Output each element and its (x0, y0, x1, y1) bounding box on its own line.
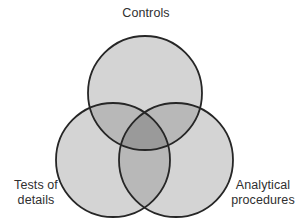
label-tests-of-details: Tests of details (2, 178, 70, 208)
label-analytical-procedures: Analytical procedures (226, 178, 300, 208)
label-controls: Controls (96, 6, 196, 21)
venn-diagram-figure: Controls Tests of details Analytical pro… (0, 0, 301, 223)
